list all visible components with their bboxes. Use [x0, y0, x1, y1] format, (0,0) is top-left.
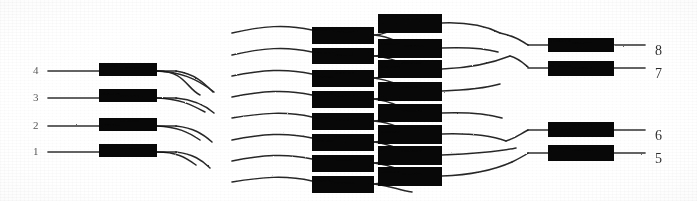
input-switch-box-1-wear [101, 146, 119, 148]
link-mid_entry-2 [232, 70, 312, 76]
mid-right-switch-box-1-wear [401, 18, 421, 20]
link-output_fan-10 [506, 130, 528, 141]
input-switch-box-3-wear [101, 93, 119, 95]
network-svg [0, 0, 697, 201]
input-switch-box-1-wear [120, 148, 138, 150]
input-switch-box-1 [99, 144, 157, 157]
mid-right-switch-box-4-wear [380, 84, 400, 86]
input-switch-box-4-wear [120, 67, 138, 69]
link-output_fan-0 [442, 23, 500, 33]
link-input_fan-7 [176, 126, 212, 142]
mid-right-switch-box-2 [378, 39, 442, 58]
mid-right-switch-box-1-wear [380, 16, 400, 18]
link-output_fan-9 [510, 56, 528, 67]
link-output_fan-3 [442, 84, 500, 91]
mid-left-switch-box-2 [312, 48, 374, 64]
link-output_fan-7 [442, 162, 512, 176]
link-output_fan-1 [442, 48, 498, 52]
mid-left-switch-box-5 [312, 113, 374, 130]
link-output_fan-11 [512, 153, 528, 162]
input-switch-box-4 [99, 63, 157, 76]
input-switch-box-2-wear [101, 124, 119, 126]
link-output_fan-5 [442, 134, 506, 141]
mid-left-switch-box-3-wear [314, 76, 333, 78]
input-lines-group [48, 71, 176, 152]
input-switch-box-4-wear [101, 65, 119, 67]
input-label-3: 3 [33, 92, 39, 103]
link-output_fan-8 [500, 33, 528, 45]
output-switch-box-8-wear [550, 40, 571, 42]
link-input_fan-4 [157, 152, 196, 165]
mid-left-switch-box-2-wear [314, 52, 333, 54]
mid-left-switch-box-6-wear [314, 140, 333, 142]
mid-left-switch-box-7-wear [314, 157, 333, 159]
mid-left-switch-box-6-wear [335, 136, 354, 138]
mid-left-switch-box-5-wear [335, 119, 354, 121]
mid-left-switch-box-7-wear [335, 159, 354, 161]
mid-right-switch-box-5 [378, 104, 442, 122]
output-label-8: 8 [655, 44, 662, 58]
mid-right-switch-box-6-wear [380, 131, 400, 133]
link-input_fan-3 [157, 126, 200, 140]
link-mid_entry-4 [232, 113, 312, 118]
output-switch-box-6-wear [572, 124, 593, 126]
mid-left-switch-box-8 [312, 176, 374, 193]
output-switch-box-5-wear [572, 149, 593, 151]
mid-left-switch-box-5-wear [314, 117, 333, 119]
mid-left-switch-box-4-wear [314, 93, 333, 95]
mid-right-switch-box-2-wear [401, 45, 421, 47]
link-mid_entry-5 [232, 134, 312, 140]
mid-right-switch-box-7-wear [380, 148, 400, 150]
input-label-4: 4 [33, 65, 39, 76]
mid-left-switch-box-8-wear [335, 182, 354, 184]
switch-boxes-group [99, 14, 614, 193]
input-label-1: 1 [33, 146, 39, 157]
mid-right-switch-box-5-wear [380, 108, 400, 110]
output-label-6: 6 [655, 129, 662, 143]
link-input_fan-8 [176, 152, 210, 168]
mid-right-switch-box-6-wear [401, 127, 421, 129]
mid-right-switch-box-8 [378, 167, 442, 186]
link-output_fan-4 [442, 113, 502, 118]
link-output_fan-2 [442, 56, 510, 69]
link-mid_entry-7 [232, 177, 312, 182]
link-mid_entry-0 [232, 26, 312, 33]
mid-left-switch-box-3-wear [335, 72, 354, 74]
mid-right-switch-box-5-wear [401, 110, 421, 112]
mid-right-switch-box-4-wear [401, 86, 421, 88]
output-switch-box-5-wear [550, 147, 571, 149]
output-switch-box-6-wear [550, 128, 571, 130]
output-label-7: 7 [655, 67, 662, 81]
output-switch-box-7-wear [550, 65, 571, 67]
link-output_fan-6 [442, 148, 516, 155]
mid-left-switch-box-8-wear [314, 180, 333, 182]
mid-left-switch-box-1-wear [314, 29, 333, 31]
mid-left-switch-box-4-wear [335, 95, 354, 97]
mid-right-switch-box-8-wear [380, 171, 400, 173]
link-input_fan-2 [157, 98, 205, 112]
input-label-2: 2 [33, 120, 39, 131]
mid-left-switch-box-1-wear [335, 31, 354, 33]
mid-left-switch-box-2-wear [335, 54, 354, 56]
link-mid_entry-3 [232, 91, 312, 97]
output-switch-box-8-wear [572, 42, 593, 44]
link-mid_entry-6 [232, 155, 312, 161]
link-mid_entry-1 [232, 48, 312, 55]
mid-right-switch-box-3-wear [401, 62, 421, 64]
mid-right-switch-box-3-wear [380, 66, 400, 68]
input-switch-box-3-wear [120, 95, 138, 97]
output-switch-box-7-wear [572, 67, 593, 69]
link-input_fan-6 [176, 98, 214, 113]
output-label-5: 5 [655, 152, 662, 166]
input-switch-box-2-wear [120, 120, 138, 122]
mid-right-switch-box-2-wear [380, 43, 400, 45]
mid-right-switch-box-7-wear [401, 150, 421, 152]
mid-right-switch-box-8-wear [401, 173, 421, 175]
switching-network-figure: 4321 8765 [0, 0, 697, 201]
